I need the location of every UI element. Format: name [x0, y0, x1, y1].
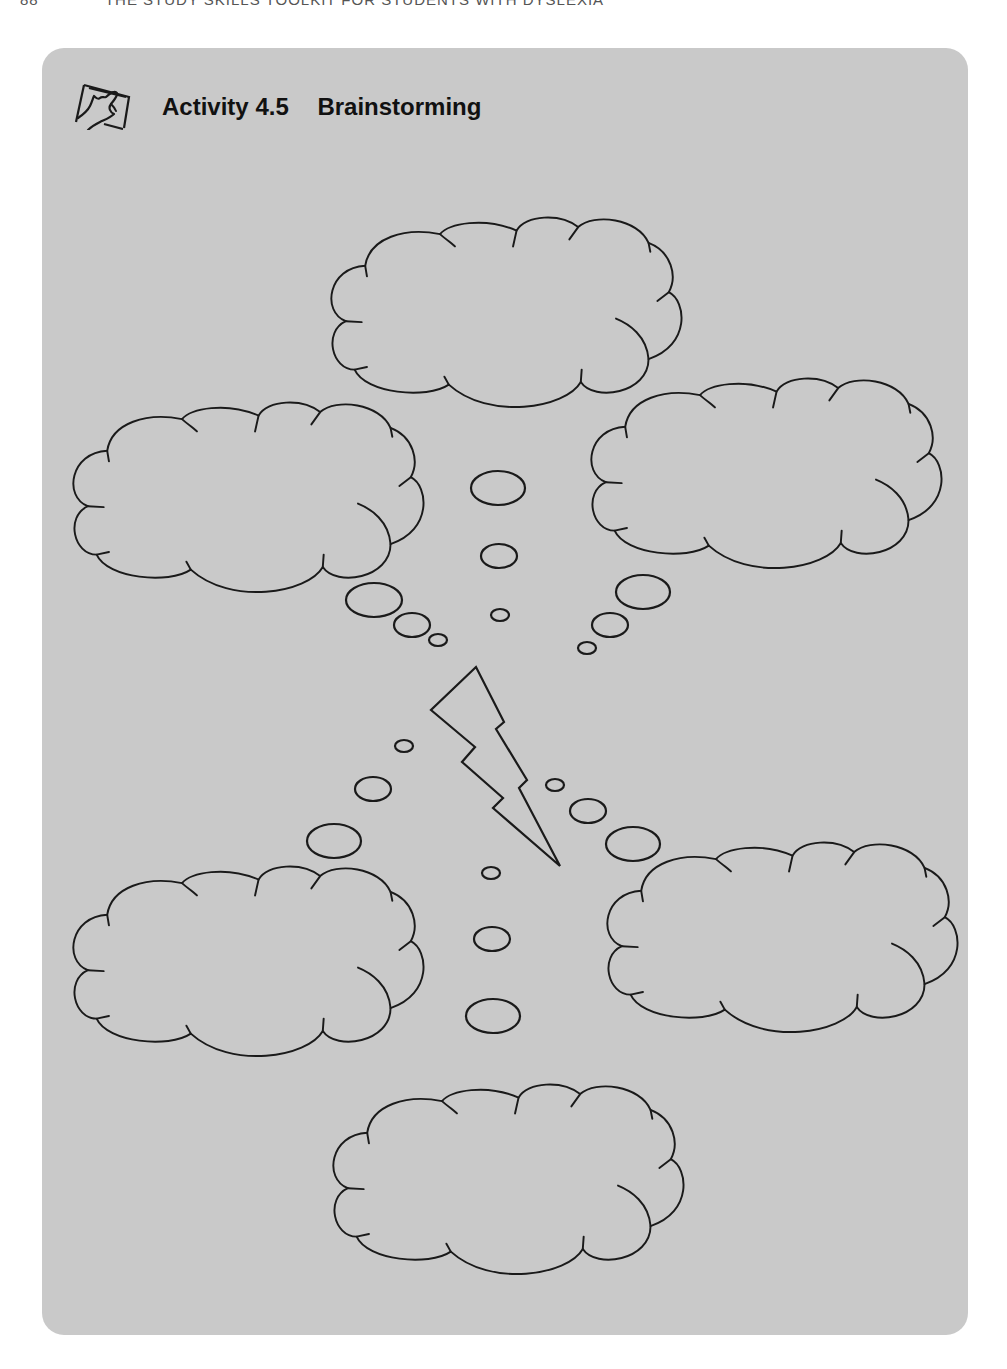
thought-bubbles — [307, 471, 670, 1033]
thought-bubble — [474, 927, 510, 951]
thought-bubble — [395, 740, 413, 752]
thought-bubble — [466, 999, 520, 1033]
brainstorm-diagram — [0, 0, 1007, 1369]
thought-bubble — [570, 799, 606, 823]
cloud-upper-right — [591, 379, 941, 569]
cloud-lower-right — [607, 843, 957, 1033]
thought-bubble — [307, 824, 361, 858]
thought-bubble — [578, 642, 596, 654]
thought-bubble — [616, 575, 670, 609]
thought-bubble — [394, 613, 430, 637]
cloud-bottom — [333, 1085, 683, 1275]
cloud-lower-left — [73, 867, 423, 1057]
thought-bubble — [546, 779, 564, 791]
thought-bubble — [471, 471, 525, 505]
thought-bubble — [491, 609, 509, 621]
thought-bubble — [482, 867, 500, 879]
cloud-upper-left — [73, 403, 423, 593]
thought-bubble — [346, 583, 402, 617]
thought-bubble — [355, 777, 391, 801]
thought-bubble — [592, 613, 628, 637]
thought-bubble — [606, 827, 660, 861]
thought-bubble — [429, 634, 447, 646]
lightning-bolt-outline — [431, 667, 560, 866]
thought-bubble — [481, 544, 517, 568]
cloud-top — [331, 218, 681, 408]
